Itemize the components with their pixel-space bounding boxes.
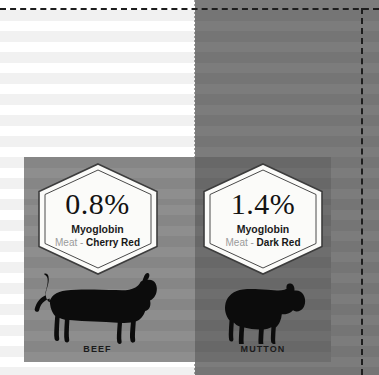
cow-silhouette-shape [34,268,162,344]
badge-beef: 0.8% Myoglobin Meat - Cherry Red [37,163,159,275]
category-label-mutton: MUTTON [195,344,331,354]
column-beef: 0.8% Myoglobin Meat - Cherry Red BEEF [0,0,195,375]
meat-color-line-mutton: Meat - Dark Red [225,237,300,249]
meat-color-lead-mutton: Meat - [225,237,253,248]
meat-color-value-mutton: Dark Red [257,237,301,248]
badge-mutton: 1.4% Myoglobin Meat - Dark Red [202,163,324,275]
meat-color-lead-beef: Meat - [55,237,83,248]
badge-text-mutton: 1.4% Myoglobin Meat - Dark Red [202,163,324,275]
column-mutton: 1.4% Myoglobin Meat - Dark Red MUTTON [195,0,358,375]
nutrient-label-mutton: Myoglobin [237,223,290,235]
myoglobin-value-mutton: 1.4% [231,189,296,219]
sheep-silhouette-icon [218,282,308,344]
crop-mark-top [0,8,379,10]
crop-mark-right [361,8,363,375]
meat-color-line-beef: Meat - Cherry Red [55,237,140,249]
sheep-silhouette-shape [218,282,308,344]
meat-color-value-beef: Cherry Red [86,237,140,248]
myoglobin-value-beef: 0.8% [65,189,130,219]
cow-silhouette-icon [34,268,162,344]
nutrient-label-beef: Myoglobin [71,223,124,235]
category-label-beef: BEEF [0,344,195,354]
badge-text-beef: 0.8% Myoglobin Meat - Cherry Red [37,163,159,275]
myoglobin-infographic: 0.8% Myoglobin Meat - Cherry Red BEEF 1. [0,0,379,375]
